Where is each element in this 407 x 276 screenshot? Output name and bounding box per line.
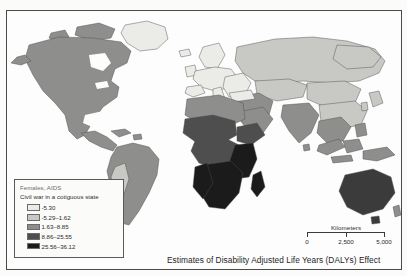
legend-swatch-class-4 — [27, 233, 40, 240]
map-frame: Females, AIDS Civil war in a cotiguous s… — [6, 10, 402, 270]
legend-label-class-2: -5.29–1.62 — [42, 214, 71, 221]
legend-row[interactable]: 25.56–36.12 — [20, 242, 119, 250]
legend-class-list: -5.30 -5.29–1.62 1.63–8.85 8.86–25.55 25… — [20, 204, 119, 251]
scalebar-units-label: Kilometers — [298, 224, 394, 231]
scalebar-tick-0 — [307, 232, 308, 237]
legend-row[interactable]: -5.29–1.62 — [20, 213, 119, 221]
legend-swatch-class-5 — [27, 243, 40, 250]
map-legend[interactable]: Females, AIDS Civil war in a cotiguous s… — [14, 179, 124, 258]
scalebar-label-2: 5,000 — [376, 238, 391, 245]
scalebar-label-1: 2,500 — [338, 238, 353, 245]
region-sri-lanka[interactable] — [303, 144, 310, 151]
legend-title-secondary: Civil war in a cotiguous state — [20, 193, 119, 202]
legend-label-class-1: -5.30 — [42, 204, 56, 211]
map-scalebar: Kilometers 0 2,500 5,000 — [298, 224, 394, 247]
legend-title-primary: Females, AIDS — [20, 184, 119, 193]
scalebar-tick-1 — [346, 232, 347, 237]
legend-row[interactable]: 8.86–25.55 — [20, 232, 119, 240]
legend-label-class-4: 8.86–25.55 — [42, 233, 73, 240]
legend-swatch-class-3 — [27, 224, 40, 231]
dalys-choropleth-figure: Females, AIDS Civil war in a cotiguous s… — [0, 0, 407, 276]
legend-label-class-3: 1.63–8.85 — [42, 223, 69, 230]
scalebar-tick-labels: 0 2,500 5,000 — [298, 238, 394, 247]
legend-swatch-class-1 — [27, 204, 40, 211]
figure-caption: Estimates of Disability Adjusted Life Ye… — [167, 255, 380, 265]
legend-label-class-5: 25.56–36.12 — [42, 243, 76, 250]
legend-row[interactable]: -5.30 — [20, 204, 119, 212]
legend-swatch-class-2 — [27, 214, 40, 221]
region-caribbean-islet[interactable] — [133, 134, 142, 140]
scalebar-tick-2 — [384, 232, 385, 237]
scalebar-label-0: 0 — [305, 238, 308, 245]
region-philippines[interactable] — [355, 123, 367, 137]
region-tasmania[interactable] — [371, 216, 380, 224]
region-korea[interactable] — [361, 102, 368, 111]
legend-row[interactable]: 1.63–8.85 — [20, 223, 119, 231]
